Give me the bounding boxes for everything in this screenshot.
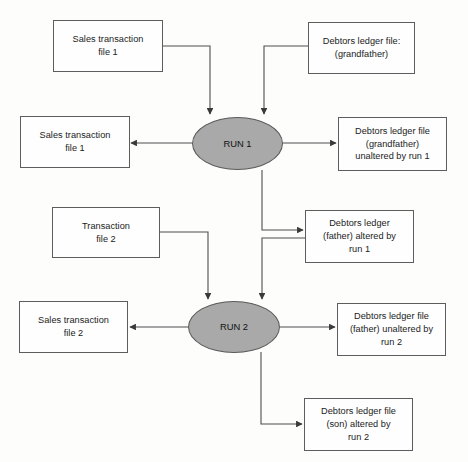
node-sales-transaction-file-1-out[interactable]: Sales transaction file 1 [20, 116, 130, 168]
node-transaction-file-2-in[interactable]: Transaction file 2 [52, 207, 160, 258]
node-debtors-father-unaltered[interactable]: Debtors ledger file (father) unaltered b… [337, 303, 446, 356]
node-debtors-ledger-grandfather[interactable]: Debtors ledger file: (grandfather) [308, 22, 415, 74]
edge-run2-to-son-altered [261, 352, 302, 424]
diagram-canvas: Sales transaction file 1 Debtors ledger … [0, 0, 468, 462]
edge-run1-to-father-altered [262, 170, 303, 230]
node-debtors-father-altered[interactable]: Debtors ledger (father) altered by run 1 [305, 210, 414, 263]
node-debtors-grandfather-unaltered[interactable]: Debtors ledger file (grandfather) unalte… [338, 117, 447, 171]
node-debtors-son-altered[interactable]: Debtors ledger file (son) altered by run… [304, 398, 413, 451]
edge-transaction2-to-run2 [160, 232, 208, 299]
node-run-2[interactable]: RUN 2 [188, 301, 280, 353]
node-run-1[interactable]: RUN 1 [192, 117, 283, 170]
edge-sales1-to-run1 [163, 46, 210, 114]
edge-father-altered-to-run2 [262, 238, 306, 299]
node-sales-transaction-file-2-out[interactable]: Sales transaction file 2 [19, 301, 128, 353]
node-sales-transaction-file-1-in[interactable]: Sales transaction file 1 [53, 20, 163, 72]
edge-grandfather-to-run1 [264, 46, 308, 114]
